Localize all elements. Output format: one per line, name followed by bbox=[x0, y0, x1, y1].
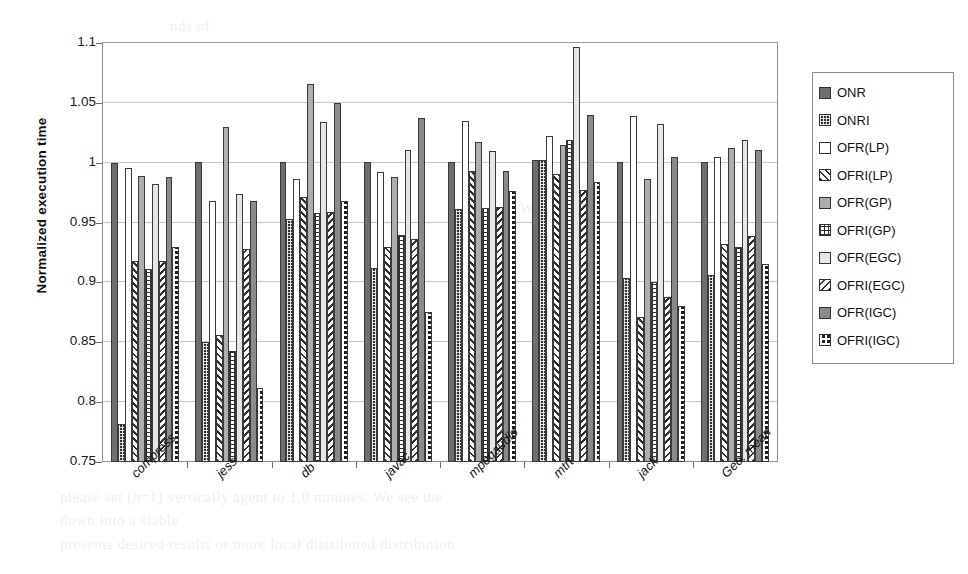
bar-onr-javac[interactable] bbox=[364, 162, 371, 462]
legend-item-ofrlp[interactable]: OFR(LP) bbox=[819, 134, 953, 162]
legend-item-ofrilp[interactable]: OFRI(LP) bbox=[819, 162, 953, 190]
bar-ofrlp-db[interactable] bbox=[293, 179, 300, 462]
bar-ofregc-mpegaudio[interactable] bbox=[489, 151, 496, 462]
bar-onr-geomean[interactable] bbox=[701, 162, 708, 462]
bar-ofrilp-javac[interactable] bbox=[384, 247, 391, 462]
bar-ofrigc-jess[interactable] bbox=[250, 201, 257, 462]
bar-ofriigc-compress[interactable] bbox=[172, 247, 179, 462]
bar-onr-mtrt[interactable] bbox=[532, 160, 539, 462]
bar-onri-mpegaudio[interactable] bbox=[455, 209, 462, 462]
bar-ofrigp-mpegaudio[interactable] bbox=[482, 208, 489, 462]
bar-ofrigc-compress[interactable] bbox=[166, 177, 173, 462]
bar-ofregc-db[interactable] bbox=[320, 122, 327, 462]
bar-ofrilp-db[interactable] bbox=[300, 197, 307, 462]
legend-item-ofrigp[interactable]: OFRI(GP) bbox=[819, 217, 953, 245]
bar-group bbox=[187, 43, 271, 462]
bar-onr-jess[interactable] bbox=[195, 162, 202, 462]
bar-ofregc-jack[interactable] bbox=[657, 124, 664, 462]
bar-ofriegc-mpegaudio[interactable] bbox=[496, 207, 503, 462]
bar-ofrigc-geomean[interactable] bbox=[755, 150, 762, 462]
bar-ofriigc-mpegaudio[interactable] bbox=[509, 191, 516, 462]
bar-ofregc-mtrt[interactable] bbox=[573, 47, 580, 462]
bar-onri-geomean[interactable] bbox=[708, 275, 715, 462]
bar-ofrlp-compress[interactable] bbox=[125, 168, 132, 462]
bar-ofrigp-db[interactable] bbox=[314, 213, 321, 462]
bar-ofriegc-db[interactable] bbox=[327, 212, 334, 462]
legend-swatch-icon bbox=[819, 197, 831, 209]
bar-ofregc-jess[interactable] bbox=[236, 194, 243, 462]
bar-ofriigc-javac[interactable] bbox=[425, 312, 432, 462]
bar-ofrgp-geomean[interactable] bbox=[728, 148, 735, 462]
bar-ofrgp-mtrt[interactable] bbox=[560, 145, 567, 462]
bar-onri-javac[interactable] bbox=[371, 268, 378, 462]
bar-ofrigc-javac[interactable] bbox=[418, 118, 425, 462]
bar-ofriegc-geomean[interactable] bbox=[748, 236, 755, 462]
legend-item-ofrigc[interactable]: OFR(IGC) bbox=[819, 299, 953, 327]
bar-ofrigc-db[interactable] bbox=[334, 103, 341, 462]
legend-item-label: ONRI bbox=[837, 113, 870, 128]
bar-ofrilp-jack[interactable] bbox=[637, 317, 644, 462]
bar-ofrlp-javac[interactable] bbox=[377, 172, 384, 462]
bar-ofregc-geomean[interactable] bbox=[742, 140, 749, 462]
bar-onri-mtrt[interactable] bbox=[539, 160, 546, 462]
bar-ofrgp-compress[interactable] bbox=[138, 176, 145, 462]
bar-ofrigp-jess[interactable] bbox=[229, 351, 236, 462]
bar-ofrgp-db[interactable] bbox=[307, 84, 314, 462]
bar-ofriigc-mtrt[interactable] bbox=[594, 182, 601, 462]
bar-ofrilp-mtrt[interactable] bbox=[553, 174, 560, 463]
bar-ofriigc-db[interactable] bbox=[341, 201, 348, 462]
bar-ofrilp-mpegaudio[interactable] bbox=[469, 171, 476, 462]
legend-item-onri[interactable]: ONRI bbox=[819, 107, 953, 135]
bar-onr-compress[interactable] bbox=[111, 163, 118, 462]
bar-ofriegc-jack[interactable] bbox=[664, 297, 671, 462]
bar-ofrlp-geomean[interactable] bbox=[714, 157, 721, 462]
y-axis-tick-label: 0.85 bbox=[40, 333, 96, 348]
bar-group bbox=[693, 43, 777, 462]
bar-ofrigc-mtrt[interactable] bbox=[587, 115, 594, 462]
bar-ofrlp-jess[interactable] bbox=[209, 201, 216, 462]
bar-ofrgp-javac[interactable] bbox=[391, 177, 398, 462]
bar-onri-compress[interactable] bbox=[118, 424, 125, 462]
bar-ofriegc-javac[interactable] bbox=[411, 239, 418, 462]
legend-item-ofriigc[interactable]: OFRI(IGC) bbox=[819, 327, 953, 355]
bar-ofrigp-geomean[interactable] bbox=[735, 247, 742, 462]
bar-ofrilp-geomean[interactable] bbox=[721, 244, 728, 462]
bar-ofrigp-javac[interactable] bbox=[398, 235, 405, 462]
bar-ofrigc-jack[interactable] bbox=[671, 157, 678, 462]
legend-swatch-icon bbox=[819, 307, 831, 319]
bar-onri-jess[interactable] bbox=[202, 342, 209, 462]
bar-onr-jack[interactable] bbox=[617, 162, 624, 462]
bar-ofrigp-jack[interactable] bbox=[651, 282, 658, 462]
legend-item-label: OFRI(GP) bbox=[837, 223, 896, 238]
legend-item-ofregc[interactable]: OFR(EGC) bbox=[819, 244, 953, 272]
legend-item-label: OFRI(IGC) bbox=[837, 333, 900, 348]
bar-onri-db[interactable] bbox=[286, 219, 293, 462]
bar-onr-db[interactable] bbox=[280, 162, 287, 462]
legend-item-onr[interactable]: ONR bbox=[819, 79, 953, 107]
bar-ofrgp-mpegaudio[interactable] bbox=[475, 142, 482, 462]
bar-ofrigc-mpegaudio[interactable] bbox=[503, 171, 510, 462]
bar-ofriigc-jess[interactable] bbox=[257, 388, 264, 462]
legend-item-ofriegc[interactable]: OFRI(EGC) bbox=[819, 272, 953, 300]
bar-onri-jack[interactable] bbox=[623, 278, 630, 462]
bar-ofrilp-compress[interactable] bbox=[132, 261, 139, 462]
bar-ofrlp-mpegaudio[interactable] bbox=[462, 121, 469, 462]
bar-ofrlp-jack[interactable] bbox=[630, 116, 637, 462]
bar-ofrilp-jess[interactable] bbox=[216, 335, 223, 462]
y-axis-tick-label: 1 bbox=[40, 154, 96, 169]
bar-ofrlp-mtrt[interactable] bbox=[546, 136, 553, 462]
bar-ofriegc-mtrt[interactable] bbox=[580, 190, 587, 462]
bar-ofriegc-jess[interactable] bbox=[243, 249, 250, 462]
bar-ofriigc-jack[interactable] bbox=[678, 306, 685, 462]
bar-ofrigp-compress[interactable] bbox=[145, 269, 152, 462]
bar-ofrgp-jack[interactable] bbox=[644, 179, 651, 462]
legend-item-ofrgp[interactable]: OFR(GP) bbox=[819, 189, 953, 217]
y-axis-tick-label: 1.1 bbox=[40, 34, 96, 49]
bar-chart: Normalized execution time 1.11.0510.950.… bbox=[0, 0, 968, 574]
legend-item-label: OFR(EGC) bbox=[837, 250, 901, 265]
bar-ofrgp-jess[interactable] bbox=[223, 127, 230, 462]
bar-onr-mpegaudio[interactable] bbox=[448, 162, 455, 462]
bar-ofregc-compress[interactable] bbox=[152, 184, 159, 462]
bar-ofregc-javac[interactable] bbox=[405, 150, 412, 462]
bar-ofrigp-mtrt[interactable] bbox=[566, 140, 573, 462]
